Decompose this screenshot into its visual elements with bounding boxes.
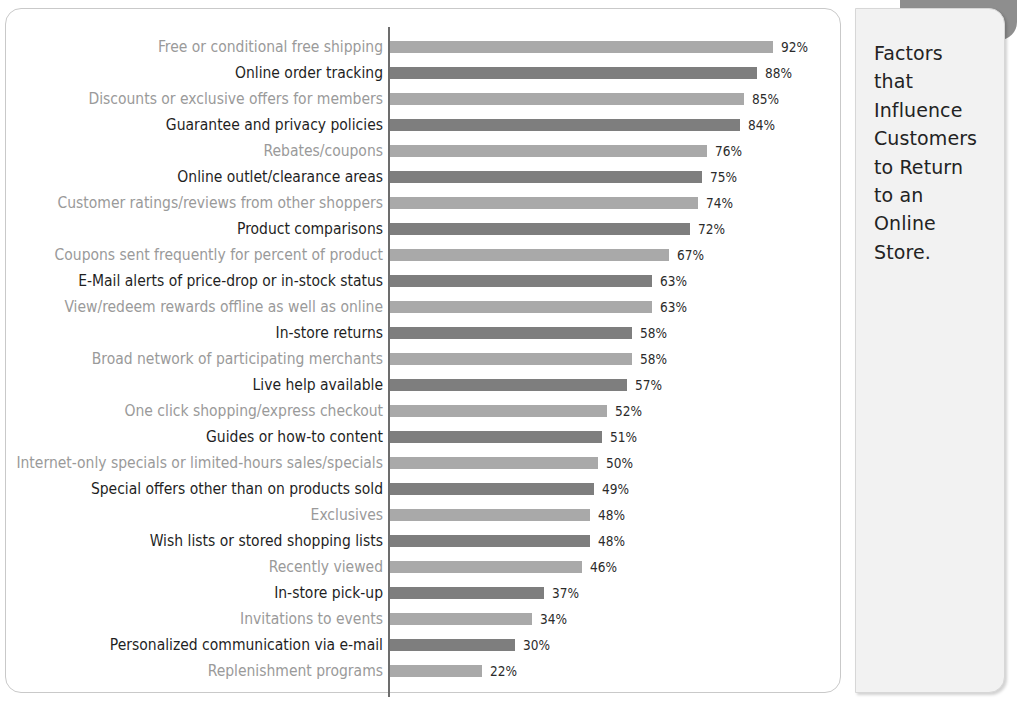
bar-category-label: Special offers other than on products so… <box>91 476 383 502</box>
bar-value-label: 22% <box>490 658 517 684</box>
chart-card: Free or conditional free shipping92%Onli… <box>5 8 841 693</box>
bar-value-label: 58% <box>640 346 667 372</box>
bar-value-label: 92% <box>781 34 808 60</box>
bar <box>390 353 632 365</box>
bar <box>390 223 690 235</box>
bar-value-label: 67% <box>677 242 704 268</box>
bar-category-label: Guarantee and privacy policies <box>166 112 383 138</box>
bar-row: Exclusives48% <box>6 502 842 528</box>
bar <box>390 665 482 677</box>
bar <box>390 301 652 313</box>
bar-value-label: 74% <box>706 190 733 216</box>
bar-category-label: Wish lists or stored shopping lists <box>150 528 383 554</box>
bar <box>390 93 744 105</box>
bar-row: Product comparisons72% <box>6 216 842 242</box>
bar-chart-plot: Free or conditional free shipping92%Onli… <box>6 9 842 694</box>
bar-row: Broad network of participating merchants… <box>6 346 842 372</box>
bar <box>390 327 632 339</box>
bar <box>390 561 582 573</box>
bar-value-label: 58% <box>640 320 667 346</box>
bar-value-label: 84% <box>748 112 775 138</box>
bar-row: Online outlet/clearance areas75% <box>6 164 842 190</box>
bar-row: Recently viewed46% <box>6 554 842 580</box>
bar <box>390 67 757 79</box>
bar-value-label: 37% <box>552 580 579 606</box>
bar-value-label: 46% <box>590 554 617 580</box>
bar-category-label: Internet-only specials or limited-hours … <box>16 450 383 476</box>
bar <box>390 249 669 261</box>
bar-value-label: 52% <box>615 398 642 424</box>
bar-value-label: 30% <box>523 632 550 658</box>
bar-value-label: 48% <box>598 528 625 554</box>
bar-value-label: 63% <box>660 294 687 320</box>
bar-row: Discounts or exclusive offers for member… <box>6 86 842 112</box>
bar-row: Online order tracking88% <box>6 60 842 86</box>
bar-category-label: Invitations to events <box>240 606 383 632</box>
bar-category-label: One click shopping/express checkout <box>125 398 383 424</box>
bar-category-label: E-Mail alerts of price-drop or in-stock … <box>78 268 383 294</box>
bar-value-label: 51% <box>610 424 637 450</box>
bar-row: Rebates/coupons76% <box>6 138 842 164</box>
bar-row: Live help available57% <box>6 372 842 398</box>
bar <box>390 483 594 495</box>
bar-row: E-Mail alerts of price-drop or in-stock … <box>6 268 842 294</box>
bar-row: In-store pick-up37% <box>6 580 842 606</box>
bar <box>390 639 515 651</box>
bar-category-label: Coupons sent frequently for percent of p… <box>55 242 383 268</box>
bar <box>390 197 698 209</box>
bar-category-label: Online outlet/clearance areas <box>177 164 383 190</box>
bar-value-label: 48% <box>598 502 625 528</box>
bar-category-label: Replenishment programs <box>208 658 383 684</box>
bar <box>390 613 532 625</box>
bar <box>390 41 773 53</box>
bar-row: Wish lists or stored shopping lists48% <box>6 528 842 554</box>
chart-screenshot: Factors that Influence Customers to Retu… <box>0 0 1017 708</box>
bar <box>390 145 707 157</box>
bar <box>390 171 702 183</box>
bar-category-label: Online order tracking <box>235 60 383 86</box>
bar-row: Free or conditional free shipping92% <box>6 34 842 60</box>
bar-category-label: Customer ratings/reviews from other shop… <box>57 190 383 216</box>
bar-value-label: 75% <box>710 164 737 190</box>
bar-row: Special offers other than on products so… <box>6 476 842 502</box>
bar-row: Coupons sent frequently for percent of p… <box>6 242 842 268</box>
bar-category-label: Broad network of participating merchants <box>92 346 383 372</box>
bar-category-label: Product comparisons <box>237 216 383 242</box>
bar-value-label: 76% <box>715 138 742 164</box>
bar-row: Guarantee and privacy policies84% <box>6 112 842 138</box>
bar-category-label: Discounts or exclusive offers for member… <box>88 86 383 112</box>
bar <box>390 431 602 443</box>
bar-value-label: 34% <box>540 606 567 632</box>
bar-category-label: Guides or how-to content <box>206 424 383 450</box>
bar <box>390 405 607 417</box>
bar-value-label: 72% <box>698 216 725 242</box>
bar-row: Customer ratings/reviews from other shop… <box>6 190 842 216</box>
bar <box>390 587 544 599</box>
bar-value-label: 57% <box>635 372 662 398</box>
bar-row: Replenishment programs22% <box>6 658 842 684</box>
bar-category-label: Recently viewed <box>269 554 383 580</box>
bar-category-label: Personalized communication via e-mail <box>110 632 383 658</box>
bar-category-label: Live help available <box>253 372 383 398</box>
bar-row: One click shopping/express checkout52% <box>6 398 842 424</box>
bar-category-label: View/redeem rewards offline as well as o… <box>64 294 383 320</box>
bar-value-label: 88% <box>765 60 792 86</box>
bar-value-label: 85% <box>752 86 779 112</box>
bar <box>390 275 652 287</box>
chart-title: Factors that Influence Customers to Retu… <box>874 39 992 266</box>
bar <box>390 119 740 131</box>
bar <box>390 379 627 391</box>
bar-value-label: 50% <box>606 450 633 476</box>
bar-category-label: In-store pick-up <box>274 580 383 606</box>
bar-row: Personalized communication via e-mail30% <box>6 632 842 658</box>
bar-category-label: Exclusives <box>311 502 383 528</box>
bar-category-label: Rebates/coupons <box>263 138 383 164</box>
bar-row: Guides or how-to content51% <box>6 424 842 450</box>
title-side-panel: Factors that Influence Customers to Retu… <box>855 8 1005 693</box>
bar <box>390 509 590 521</box>
bar-row: Internet-only specials or limited-hours … <box>6 450 842 476</box>
bar-row: In-store returns58% <box>6 320 842 346</box>
bar-value-label: 49% <box>602 476 629 502</box>
bar <box>390 457 598 469</box>
bar-row: View/redeem rewards offline as well as o… <box>6 294 842 320</box>
